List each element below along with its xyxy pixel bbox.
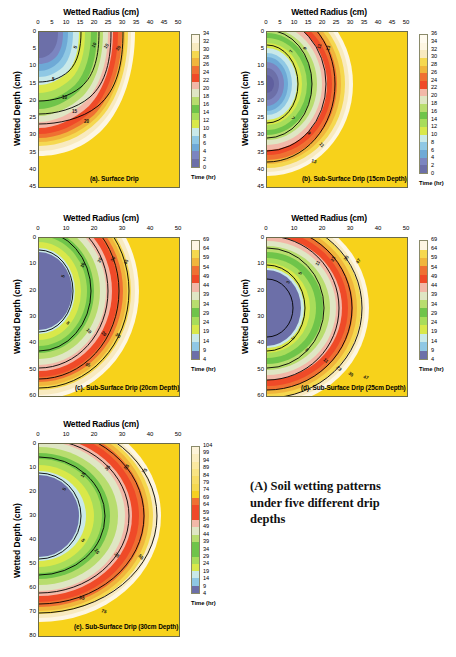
panel-e-caption: (e). Sub-Surface Drip (30cm Depth) (74, 623, 178, 630)
panel-d-x-ticks: 0 10 20 30 40 50 (266, 225, 406, 235)
panel-c-colorbar-title: Time (hr) (191, 366, 216, 372)
panel-a-plot-area: 5 10 15 20 5 10 15 20 (a). Surface Drip (38, 31, 178, 186)
panel-a-colorbar-strip (191, 34, 200, 168)
panel-a-contour-field: 5 10 15 20 5 10 15 20 (39, 32, 179, 187)
panel-c-x-ticks: 0 10 20 30 40 50 (38, 225, 178, 235)
panel-a-caption: (a). Surface Drip (90, 175, 139, 182)
panel-a-x-ticks: 0 5 10 15 20 25 30 35 40 45 50 (38, 19, 178, 29)
panel-b-colorbar-strip (419, 34, 428, 174)
svg-text:20: 20 (84, 119, 90, 124)
svg-text:15: 15 (72, 109, 78, 114)
panel-e: Wetted Radius (cm) Wetted Depth (cm) 0 1… (6, 418, 226, 652)
panel-c-colorbar-strip (191, 240, 200, 360)
panel-e-x-ticks: 0 10 20 30 40 50 (38, 431, 178, 441)
svg-text:5: 5 (52, 77, 55, 82)
figure-caption: (A) Soil wetting patterns under five dif… (250, 478, 415, 528)
panel-d-y-ticks: 0 10 20 30 40 50 60 (252, 237, 262, 395)
panel-d-plot-area: 3 5 11 23 35 47 3 5 11 23 35 47 (266, 237, 406, 395)
panel-d-colorbar: 4 9 14 19 24 29 34 39 44 49 54 59 64 69 … (419, 240, 453, 360)
panel-e-colorbar-strip (191, 446, 200, 594)
panel-b-x-axis-title: Wetted Radius (cm) (254, 7, 404, 17)
panel-d-colorbar-title: Time (hr) (419, 366, 444, 372)
panel-c-colorbar: 4 9 14 19 24 29 34 39 44 49 54 59 64 69 … (191, 240, 225, 360)
panel-e-contour-field: 5 15 35 55 75 5 15 35 55 55 75 (39, 444, 179, 636)
panel-d-x-axis-title: Wetted Radius (cm) (254, 213, 404, 223)
panel-e-plot-area: 5 15 35 55 75 5 15 35 55 55 75 (38, 443, 178, 635)
panel-c-plot-area: 5 10 20 30 45 5 10 20 30 45 (38, 237, 178, 395)
panel-c-caption: (c). Sub-Surface Drip (20cm Depth) (75, 384, 179, 391)
figure-root: Wetted Radius (cm) Wetted Depth (cm) 0 5… (0, 0, 456, 657)
panel-a-colorbar-title: Time (hr) (191, 174, 216, 180)
panel-b-colorbar-title: Time (hr) (419, 180, 444, 186)
panel-b-caption: (b). Sub-Surface Drip (15cm Depth) (302, 175, 407, 182)
panel-e-x-axis-title: Wetted Radius (cm) (26, 419, 176, 429)
panel-e-y-ticks: 0 10 20 30 40 50 60 70 80 (24, 443, 34, 635)
panel-b-x-ticks: 0 5 10 15 20 25 30 35 40 45 50 (266, 19, 406, 29)
svg-text:10: 10 (62, 95, 68, 100)
panel-d-caption: (d). Sub-Surface Drip (25cm Depth) (301, 384, 406, 391)
panel-d-contour-field: 3 5 11 23 35 47 3 5 11 23 35 47 (267, 238, 407, 396)
panel-c-y-axis-title: Wetted Depth (cm) (12, 279, 22, 354)
panel-b-y-ticks: 0 5 10 15 20 25 30 35 40 45 (252, 31, 262, 186)
panel-d-y-axis-title: Wetted Depth (cm) (240, 279, 250, 354)
panel-b-y-axis-title: Wetted Depth (cm) (240, 71, 250, 146)
panel-b-plot-area: 7 9 11 13 7 9 11 13 (b). Sub-Surface Dri… (266, 31, 406, 186)
panel-c: Wetted Radius (cm) Wetted Depth (cm) 0 1… (6, 212, 226, 408)
panel-b-contour-field: 7 9 11 13 7 9 11 13 (267, 32, 407, 187)
panel-a-y-axis-title: Wetted Depth (cm) (12, 71, 22, 146)
panel-c-y-ticks: 0 10 20 30 40 50 60 (24, 237, 34, 395)
panel-a-x-axis-title: Wetted Radius (cm) (26, 7, 176, 17)
panel-a-y-ticks: 0 5 10 15 20 25 30 35 40 45 (24, 31, 34, 186)
panel-d: Wetted Radius (cm) Wetted Depth (cm) 0 1… (234, 212, 454, 408)
panel-a: Wetted Radius (cm) Wetted Depth (cm) 0 5… (6, 6, 226, 202)
panel-c-x-axis-title: Wetted Radius (cm) (26, 213, 176, 223)
panel-a-colorbar: 0 2 4 6 8 10 12 14 16 18 20 22 24 26 28 … (191, 34, 225, 168)
panel-e-y-axis-title: Wetted Depth (cm) (12, 503, 22, 578)
panel-c-contour-field: 5 10 20 30 45 5 10 20 30 45 (39, 238, 179, 396)
panel-b: Wetted Radius (cm) Wetted Depth (cm) 0 5… (234, 6, 454, 202)
panel-e-colorbar-title: Time (hr) (191, 600, 216, 606)
panel-e-colorbar: 4 9 14 19 24 29 34 39 44 49 54 59 64 69 … (191, 446, 225, 594)
panel-d-colorbar-strip (419, 240, 428, 360)
panel-b-colorbar: 0 2 4 6 8 10 12 14 16 18 20 22 24 26 28 … (419, 34, 453, 174)
